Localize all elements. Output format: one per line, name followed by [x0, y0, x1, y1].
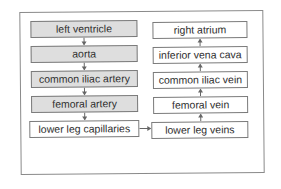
node-femoral-artery: femoral artery: [31, 95, 138, 113]
arrow-down-icon: [81, 37, 88, 45]
node-femoral-vein: femoral vein: [153, 96, 248, 114]
node-right-atrium: right atrium: [152, 21, 247, 39]
node-common-iliac-artery: common iliac artery: [31, 70, 138, 88]
arrow-down-icon: [81, 112, 88, 120]
arrow-up-icon: [197, 88, 204, 96]
arrow-up-icon: [197, 63, 204, 71]
arrow-up-icon: [197, 113, 204, 121]
arrow-down-icon: [81, 87, 88, 95]
node-inferior-vena-cava: inferior vena cava: [153, 46, 248, 64]
diagram-frame: left ventricle aorta common iliac artery…: [19, 10, 264, 175]
node-common-iliac-vein: common iliac vein: [153, 71, 248, 89]
node-lower-leg-capillaries: lower leg capillaries: [29, 120, 139, 138]
node-lower-leg-veins: lower leg veins: [151, 121, 248, 139]
arrow-down-icon: [81, 62, 88, 70]
node-aorta: aorta: [31, 45, 138, 63]
arrow-right-icon: [139, 125, 151, 132]
arrow-up-icon: [197, 38, 204, 46]
node-left-ventricle: left ventricle: [30, 20, 137, 38]
